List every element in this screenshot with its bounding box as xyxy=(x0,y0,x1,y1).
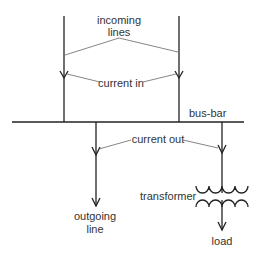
label-current-out: current out xyxy=(132,133,185,145)
label-incoming: incoming xyxy=(97,14,141,26)
label-outgoing: outgoing xyxy=(74,210,116,222)
label-current-in: current in xyxy=(98,77,144,89)
leader-current-in-right xyxy=(143,74,176,82)
leader-current-out-right xyxy=(183,140,218,148)
label-load: load xyxy=(212,235,233,247)
leader-incoming-lines xyxy=(65,38,178,55)
diagram-canvas: incoming lines current in bus-bar curren… xyxy=(0,0,264,256)
label-line: line xyxy=(86,223,103,235)
bus-bar-diagram: incoming lines current in bus-bar curren… xyxy=(0,0,264,256)
label-lines: lines xyxy=(108,26,131,38)
leader-current-in-left xyxy=(67,74,100,82)
label-bus-bar: bus-bar xyxy=(189,107,227,119)
leader-current-out-left xyxy=(99,140,131,149)
label-transformer: transformer xyxy=(140,190,197,202)
